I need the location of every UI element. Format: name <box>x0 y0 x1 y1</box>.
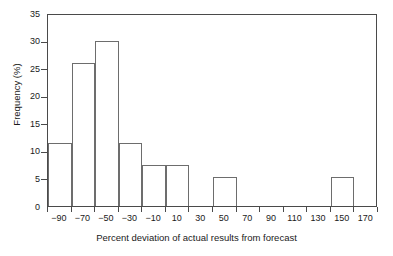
histogram-figure: Frequency (%) Percent deviation of actua… <box>0 0 393 256</box>
y-axis-tick-label: 30 <box>30 37 40 46</box>
x-axis-tick <box>165 207 166 212</box>
y-axis-tick-label: 10 <box>30 147 40 156</box>
x-axis-tick-label: −10 <box>145 213 160 223</box>
x-axis-tick-label: 110 <box>287 213 301 223</box>
bars-layer <box>48 15 376 206</box>
x-axis-tick <box>283 207 284 212</box>
y-axis-title: Frequency (%) <box>11 35 22 155</box>
x-axis-tick-label: 170 <box>358 213 373 223</box>
y-axis-tick <box>41 124 47 125</box>
x-axis-tick <box>188 207 189 212</box>
y-axis-tick-label: 15 <box>30 120 40 129</box>
x-axis-tick-label: 150 <box>334 213 349 223</box>
y-axis-tick-label: 5 <box>35 175 40 184</box>
x-axis-tick <box>94 207 95 212</box>
histogram-bar <box>331 177 355 206</box>
x-axis-tick-label: −50 <box>98 213 113 223</box>
histogram-bar <box>142 165 166 206</box>
x-axis-tick <box>236 207 237 212</box>
histogram-bar <box>166 165 190 206</box>
y-axis-tick <box>41 152 47 153</box>
x-axis-tick <box>330 207 331 212</box>
x-axis-tick <box>377 207 378 212</box>
x-axis-tick-label: 90 <box>266 213 276 223</box>
y-axis-tick <box>41 42 47 43</box>
histogram-bar <box>95 41 119 206</box>
x-axis-tick-label: −30 <box>122 213 137 223</box>
x-axis-tick <box>306 207 307 212</box>
x-axis-title: Percent deviation of actual results from… <box>0 232 393 243</box>
histogram-bar <box>48 143 72 206</box>
x-axis-tick <box>141 207 142 212</box>
x-axis-tick <box>353 207 354 212</box>
x-axis-tick-label: −90 <box>51 213 66 223</box>
histogram-bar <box>213 177 237 206</box>
x-axis-tick-label: 130 <box>311 213 326 223</box>
histogram-bar <box>72 63 96 206</box>
y-axis-tick-label: 20 <box>30 92 40 101</box>
y-axis-tick-label: 35 <box>30 10 40 19</box>
histogram-bar <box>119 143 143 206</box>
x-axis-tick <box>212 207 213 212</box>
x-axis-tick <box>47 207 48 212</box>
x-axis-tick-label: 50 <box>219 213 229 223</box>
plot-area <box>47 14 377 207</box>
x-axis-tick <box>71 207 72 212</box>
y-axis-tick <box>41 69 47 70</box>
x-axis-tick-label: 30 <box>195 213 205 223</box>
x-axis-tick-label: 10 <box>172 213 182 223</box>
x-axis-tick <box>118 207 119 212</box>
y-axis-tick <box>41 97 47 98</box>
y-axis-tick <box>41 179 47 180</box>
y-axis-tick-label: 25 <box>30 65 40 74</box>
x-axis-tick-label: 70 <box>242 213 252 223</box>
x-axis-tick-label: −70 <box>75 213 90 223</box>
y-axis-tick-label: 0 <box>35 203 40 212</box>
x-axis-tick <box>259 207 260 212</box>
